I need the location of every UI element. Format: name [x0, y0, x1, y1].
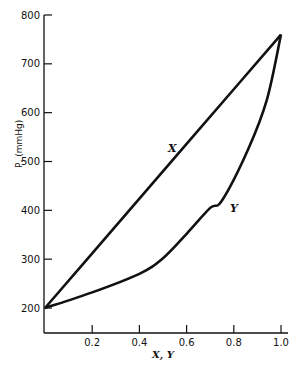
- series-x-line: [45, 35, 281, 308]
- y-axis-title: P, (mmHg): [14, 120, 24, 168]
- series-lines: [45, 35, 281, 308]
- y-tick-label: 400: [21, 205, 40, 216]
- x-curve-label: X: [167, 142, 177, 155]
- x-tick-label: 0.2: [84, 337, 100, 348]
- y-tick-label: 200: [21, 303, 40, 314]
- vle-chart: 200300400500600700800 0.20.40.60.81.0 X …: [0, 0, 299, 370]
- y-tick-label: 300: [21, 254, 40, 265]
- y-tick-label: 600: [21, 107, 40, 118]
- x-tick-label: 0.6: [179, 337, 195, 348]
- x-tick-label: 0.8: [226, 337, 242, 348]
- x-axis-title: X, Y: [151, 349, 175, 361]
- y-curve-label: Y: [230, 202, 239, 215]
- y-tick-label: 800: [21, 10, 40, 21]
- y-ticks: 200300400500600700800: [21, 10, 52, 314]
- x-ticks: 0.20.40.60.81.0: [84, 325, 289, 348]
- x-tick-label: 0.4: [131, 337, 147, 348]
- y-tick-label: 700: [21, 58, 40, 69]
- x-tick-label: 1.0: [273, 337, 289, 348]
